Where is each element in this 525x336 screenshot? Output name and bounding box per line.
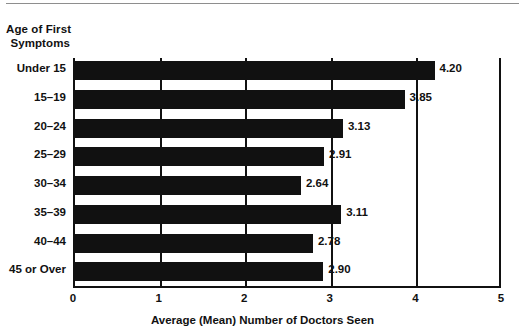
y-axis-tick-label: 25–29	[0, 148, 66, 160]
bar-value-label: 2.64	[306, 177, 328, 189]
y-axis-tick-label: Under 15	[0, 62, 66, 74]
y-axis-title-line-2: Symptoms	[6, 36, 70, 50]
y-axis-tick-label: 40–44	[0, 235, 66, 247]
bar-row: 3.13	[75, 116, 499, 145]
top-divider-rule	[6, 3, 519, 4]
bar-row: 3.11	[75, 202, 499, 231]
bar-row: 3.85	[75, 87, 499, 116]
bar	[75, 90, 405, 109]
x-axis-tick-label: 1	[144, 292, 174, 304]
y-axis-tick-label: 30–34	[0, 177, 66, 189]
x-axis-tick-label: 2	[229, 292, 259, 304]
bar-chart-figure: Age of First Symptoms Under 1515–1920–24…	[0, 0, 525, 336]
bar-value-label: 2.78	[318, 235, 340, 247]
bar-value-label: 3.13	[348, 120, 370, 132]
plot-area: 4.203.853.132.912.643.112.782.90	[73, 58, 501, 288]
y-axis-title: Age of First Symptoms	[6, 22, 70, 50]
bar	[75, 262, 323, 281]
y-axis-tick-label: 35–39	[0, 206, 66, 218]
bar-value-label: 2.91	[329, 148, 351, 160]
bar-row: 4.20	[75, 58, 499, 87]
bar	[75, 119, 343, 138]
bar-value-label: 3.85	[410, 91, 432, 103]
bar	[75, 61, 435, 80]
y-axis-title-line-1: Age of First	[6, 22, 70, 36]
x-axis-tick-label: 5	[486, 292, 516, 304]
bar-value-label: 4.20	[440, 62, 462, 74]
bar-row: 2.64	[75, 173, 499, 202]
x-axis-tick-label: 0	[58, 292, 88, 304]
y-axis-tick-label: 15–19	[0, 91, 66, 103]
bar	[75, 234, 313, 253]
bar-row: 2.78	[75, 231, 499, 260]
x-axis-tick-label: 4	[400, 292, 430, 304]
bar-value-label: 3.11	[346, 206, 368, 218]
bar-value-label: 2.90	[328, 263, 350, 275]
y-axis-tick-label: 45 or Over	[0, 263, 66, 275]
bar-row: 2.90	[75, 259, 499, 288]
bar-row: 2.91	[75, 144, 499, 173]
bar	[75, 205, 341, 224]
x-axis-tick-label: 3	[315, 292, 345, 304]
y-axis-tick-label: 20–24	[0, 120, 66, 132]
x-axis-title: Average (Mean) Number of Doctors Seen	[0, 314, 525, 326]
bar	[75, 176, 301, 195]
bar	[75, 147, 324, 166]
